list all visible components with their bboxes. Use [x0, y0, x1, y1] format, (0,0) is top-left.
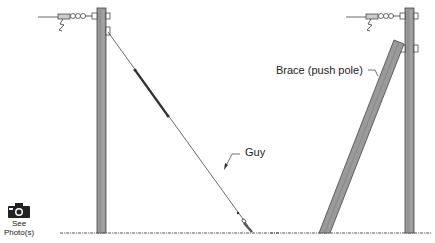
guy-leader-line — [226, 154, 240, 166]
diagram-canvas — [0, 0, 435, 243]
guy-arrowhead — [224, 163, 228, 170]
brace-leader-line — [368, 70, 378, 76]
camera-icon — [8, 203, 30, 218]
see-photos-line2: Photo(s) — [2, 228, 36, 237]
guy-wire — [108, 32, 252, 232]
left-utility-pole — [97, 8, 106, 233]
see-photos-line1: See — [2, 219, 36, 228]
see-photos-button[interactable]: See Photo(s) — [2, 203, 36, 237]
brace-label: Brace (push pole) — [276, 64, 363, 76]
guy-label: Guy — [245, 146, 265, 158]
right-utility-pole — [405, 8, 414, 233]
